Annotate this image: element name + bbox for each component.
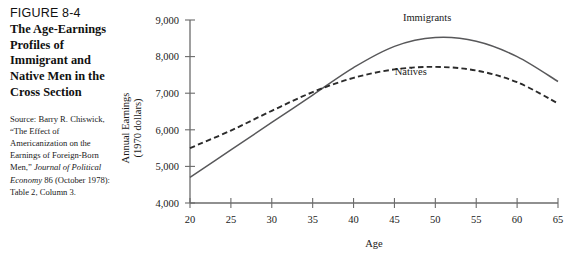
y-tick-label: 5,000 xyxy=(155,161,179,172)
y-tick-label: 6,000 xyxy=(155,125,179,136)
x-tick-label: 55 xyxy=(471,214,482,225)
series-label-immigrants: Immigrants xyxy=(403,12,451,23)
y-tick-label: 7,000 xyxy=(155,88,179,99)
x-tick-label: 25 xyxy=(226,214,237,225)
x-tick-label: 35 xyxy=(307,214,318,225)
y-tick-label: 8,000 xyxy=(155,51,179,62)
figure-source-note: Source: Barry R. Chiswick, “The Effect o… xyxy=(10,113,114,198)
y-axis-title: Annual Earnings (1970 dollars) xyxy=(120,93,144,164)
x-tick-label: 20 xyxy=(185,214,196,225)
y-tick-label: 9,000 xyxy=(155,15,179,26)
x-tick-label: 40 xyxy=(348,214,359,225)
x-tick-label: 45 xyxy=(389,214,400,225)
x-tick-label: 60 xyxy=(512,214,522,225)
series-annotations: ImmigrantsNatives xyxy=(395,12,452,76)
figure-container: FIGURE 8-4 The Age-Earnings Profiles of … xyxy=(0,0,564,260)
x-tick-label: 65 xyxy=(553,214,564,225)
chart-plot-area: Annual Earnings (1970 dollars) 4,0005,00… xyxy=(118,0,564,260)
x-tick-label: 50 xyxy=(430,214,441,225)
y-tick-label: 4,000 xyxy=(155,198,179,209)
y-axis-ticks: 4,0005,0006,0007,0008,0009,000 xyxy=(155,15,195,209)
natives-curve xyxy=(190,67,558,148)
x-axis-ticks: 20253035404550556065 xyxy=(185,198,564,225)
series-label-natives: Natives xyxy=(395,66,427,77)
x-tick-label: 30 xyxy=(267,214,278,225)
y-axis-title-line1: Annual Earnings xyxy=(120,93,131,164)
figure-title: The Age-Earnings Profiles of Immigrant a… xyxy=(10,22,118,101)
age-earnings-line-chart: Annual Earnings (1970 dollars) 4,0005,00… xyxy=(118,0,564,260)
y-axis-title-line2: (1970 dollars) xyxy=(132,98,144,158)
figure-caption-column: FIGURE 8-4 The Age-Earnings Profiles of … xyxy=(10,6,118,198)
x-axis-title: Age xyxy=(365,238,383,249)
figure-number: FIGURE 8-4 xyxy=(10,6,118,21)
immigrants-curve xyxy=(190,37,558,177)
